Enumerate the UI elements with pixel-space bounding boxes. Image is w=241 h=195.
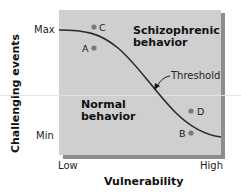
point-d-marker (188, 108, 193, 113)
threshold-arrow (154, 76, 170, 90)
point-c-label: C (99, 22, 106, 33)
point-b-label: B (179, 128, 186, 139)
point-a-label: A (82, 43, 89, 54)
point-c-marker (91, 24, 96, 29)
point-d-label: D (197, 106, 204, 117)
point-b-marker (188, 130, 193, 135)
point-a-marker (91, 45, 96, 50)
chart-overlay (0, 0, 241, 195)
threshold-annotation: Threshold (171, 70, 220, 81)
